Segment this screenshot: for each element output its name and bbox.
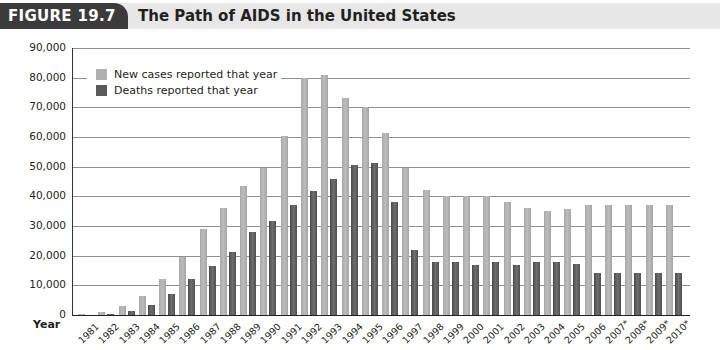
x-tick-label: 2005	[562, 321, 587, 346]
bar-new-cases	[625, 205, 632, 315]
bar-new-cases	[321, 75, 328, 315]
bar-deaths	[634, 273, 641, 315]
x-tick-label: 2002	[502, 321, 527, 346]
new-cases-swatch-icon	[96, 69, 107, 80]
bar-deaths	[269, 221, 276, 315]
x-tick-label: 1990	[258, 321, 283, 346]
bar-new-cases	[200, 229, 207, 315]
gridline	[72, 78, 87, 79]
bar-new-cases	[544, 211, 551, 315]
x-tick-label: 1981	[76, 321, 101, 346]
figure-title: The Path of AIDS in the United States	[138, 3, 456, 29]
x-tick-label: 1993	[319, 321, 344, 346]
bar-deaths	[128, 311, 135, 315]
y-tick-label: 80,000	[0, 71, 66, 83]
legend-item-new-cases: New cases reported that year	[96, 66, 277, 82]
bar-deaths	[188, 279, 195, 315]
x-tick-label: 1994	[340, 321, 365, 346]
gridline	[72, 48, 690, 49]
bar-deaths	[391, 202, 398, 315]
deaths-swatch-icon	[96, 85, 107, 96]
legend-item-deaths: Deaths reported that year	[96, 82, 277, 98]
bar-deaths	[614, 273, 621, 315]
gridline	[72, 137, 690, 138]
bar-new-cases	[301, 78, 308, 315]
gridline	[72, 226, 690, 227]
bar-new-cases	[605, 205, 612, 315]
x-tick-label: 1983	[117, 321, 142, 346]
bar-deaths	[594, 273, 601, 315]
x-tick-label: 1982	[96, 321, 121, 346]
x-tick-label: 1987	[198, 321, 223, 346]
bar-new-cases	[220, 208, 227, 315]
bar-deaths	[290, 205, 297, 315]
bar-new-cases	[402, 168, 409, 315]
x-tick-label: 1998	[421, 321, 446, 346]
bar-new-cases	[240, 186, 247, 315]
bar-new-cases	[666, 205, 673, 315]
bar-new-cases	[260, 168, 267, 315]
bar-deaths	[310, 191, 317, 315]
bar-deaths	[330, 179, 337, 315]
bar-deaths	[492, 262, 499, 315]
legend-label-new-cases: New cases reported that year	[114, 68, 277, 81]
bar-deaths	[675, 273, 682, 315]
x-tick-label: 1984	[137, 321, 162, 346]
y-tick-label: 50,000	[0, 160, 66, 172]
bar-deaths	[411, 250, 418, 315]
y-tick-label: 90,000	[0, 41, 66, 53]
x-tick-label: 1991	[279, 321, 304, 346]
gridline	[72, 107, 690, 108]
bar-new-cases	[564, 209, 571, 315]
bar-new-cases	[463, 196, 470, 315]
bar-deaths	[452, 262, 459, 315]
gridline	[72, 167, 690, 168]
y-tick-label: 10,000	[0, 278, 66, 290]
bar-new-cases	[423, 190, 430, 315]
bar-deaths	[229, 252, 236, 315]
y-tick-label: 70,000	[0, 100, 66, 112]
x-axis	[72, 315, 690, 316]
x-tick-label: 2006	[583, 321, 608, 346]
bar-new-cases	[342, 98, 349, 315]
bar-new-cases	[443, 196, 450, 315]
bar-deaths	[168, 294, 175, 315]
x-tick-label: 1997	[400, 321, 425, 346]
bar-new-cases	[646, 205, 653, 315]
x-tick-label: 1999	[441, 321, 466, 346]
x-tick-label: 2000	[461, 321, 486, 346]
bar-new-cases	[159, 279, 166, 315]
bar-new-cases	[281, 136, 288, 315]
x-tick-label: 1985	[157, 321, 182, 346]
figure-label: FIGURE 19.7	[0, 3, 128, 29]
gridline	[72, 196, 690, 197]
bar-deaths	[148, 305, 155, 315]
bar-deaths	[553, 262, 560, 315]
bar-new-cases	[504, 202, 511, 315]
x-tick-label: 2003	[522, 321, 547, 346]
y-tick-label: 60,000	[0, 130, 66, 142]
x-axis-label: Year	[33, 318, 60, 331]
bar-new-cases	[524, 208, 531, 315]
legend-label-deaths: Deaths reported that year	[114, 84, 258, 97]
x-tick-label: 2001	[481, 321, 506, 346]
bar-new-cases	[585, 205, 592, 315]
legend: New cases reported that year Deaths repo…	[92, 64, 281, 100]
bar-deaths	[533, 262, 540, 315]
bar-new-cases	[78, 314, 85, 315]
x-tick-label: 1988	[218, 321, 243, 346]
bar-deaths	[351, 165, 358, 315]
x-tick-label: 1986	[177, 321, 202, 346]
bar-deaths	[573, 264, 580, 315]
bar-deaths	[371, 163, 378, 315]
bar-new-cases	[179, 257, 186, 315]
y-axis	[72, 48, 73, 315]
bar-deaths	[472, 265, 479, 315]
bar-deaths	[107, 314, 114, 315]
x-tick-label: 1995	[360, 321, 385, 346]
x-tick-label: 1989	[238, 321, 263, 346]
x-tick-label: 1992	[299, 321, 324, 346]
bar-new-cases	[139, 296, 146, 315]
x-tick-label: 2004	[542, 321, 567, 346]
gridline	[72, 256, 690, 257]
